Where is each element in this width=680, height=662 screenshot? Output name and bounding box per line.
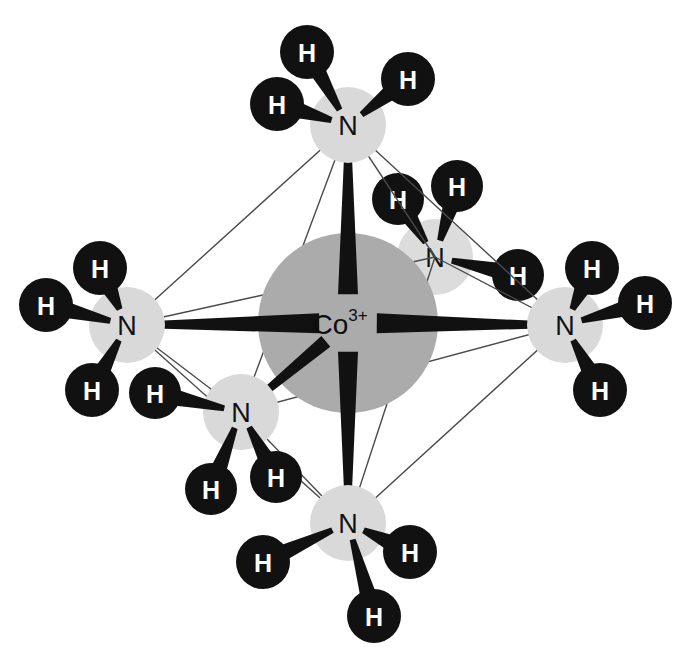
hydrogen-label: H [254, 549, 272, 577]
nitrogen-label: N [338, 509, 358, 539]
hydrogen-label: H [83, 377, 101, 405]
hydrogen-label: H [591, 377, 609, 405]
hydrogen-label: H [298, 39, 316, 67]
hydrogen-label: H [399, 66, 417, 94]
hydrogen-label: H [401, 539, 419, 567]
hydrogen-label: H [448, 173, 466, 201]
nitrogen-label: N [338, 111, 358, 141]
nitrogen-label: N [231, 398, 251, 428]
hydrogen-label: H [37, 292, 55, 320]
hydrogen-label: H [91, 255, 109, 283]
molecule-figure: NHHH NHHHNHHHNHHHNHHHNHHH Co3+ [0, 0, 680, 662]
hydrogen-label: H [146, 380, 164, 408]
hydrogen-label: H [268, 91, 286, 119]
nitrogen-label: N [555, 311, 575, 341]
hydrogen-label: H [267, 464, 285, 492]
hydrogen-label: H [202, 476, 220, 504]
hydrogen-label: H [636, 290, 654, 318]
hydrogen-label: H [583, 255, 601, 283]
cobalt-charge-label: 3+ [348, 306, 367, 325]
molecule-diagram: NHHH NHHHNHHHNHHHNHHHNHHH Co3+ [0, 0, 680, 662]
nitrogen-label: N [117, 311, 137, 341]
hydrogen-label: H [365, 603, 383, 631]
